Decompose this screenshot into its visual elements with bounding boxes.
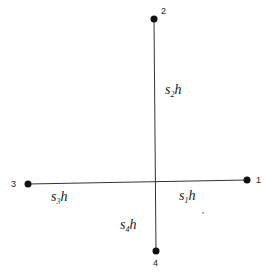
edge-3-1 (28, 180, 247, 184)
edge-2-4 (154, 19, 156, 251)
node-2-dot (151, 16, 158, 23)
node-label-4: 4 (153, 259, 158, 268)
node-label-2: 2 (161, 7, 166, 16)
node-4-dot (153, 248, 160, 255)
stray-dot (202, 212, 204, 214)
node-label-1: 1 (256, 176, 261, 185)
node-label-3: 3 (11, 180, 16, 189)
edge-label-s2h: s2h (165, 83, 181, 99)
edge-label-s3h: s3h (51, 190, 67, 206)
edge-label-s4h: s4h (120, 218, 136, 234)
edge-label-s1h: s1h (179, 189, 195, 205)
node-3-dot (25, 181, 32, 188)
node-1-dot (244, 177, 251, 184)
